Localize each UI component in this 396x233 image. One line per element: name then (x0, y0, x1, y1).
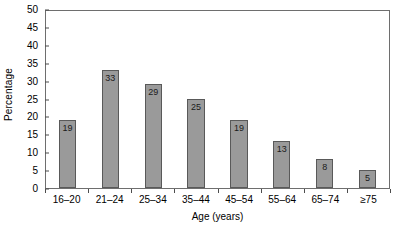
bar-value-label: 33 (105, 74, 115, 187)
x-axis-tick-mark (218, 189, 219, 193)
bar-cell: 19 (46, 11, 89, 188)
x-axis-tick-mark (88, 189, 89, 193)
x-axis-tick-mark (390, 189, 391, 193)
x-axis-tick-mark (347, 189, 348, 193)
x-axis-tick-label: 21–24 (88, 194, 131, 205)
y-axis-tick-label: 50 (27, 5, 38, 15)
y-axis-tick-label: 5 (32, 166, 38, 176)
bar: 5 (359, 170, 376, 188)
bar-value-label: 19 (62, 124, 72, 187)
bar: 19 (59, 120, 76, 188)
y-axis-tick-label: 20 (27, 112, 38, 122)
x-axis-tick-label: ≥75 (347, 194, 390, 205)
x-axis-tick-mark (131, 189, 132, 193)
y-axis-tick-mark (45, 117, 49, 118)
y-axis-tick-mark (45, 45, 49, 46)
bar-value-label: 25 (191, 103, 201, 188)
y-axis-tick-mark (45, 135, 49, 136)
bar-cell: 8 (303, 11, 346, 188)
x-axis-tick-label: 16–20 (45, 194, 88, 205)
bar: 8 (316, 159, 333, 188)
y-axis-tick-mark (45, 63, 49, 64)
y-axis-tick-label: 40 (27, 41, 38, 51)
y-axis-tick-mark (45, 81, 49, 82)
bar-series: 19332925191385 (46, 11, 389, 188)
bar-value-label: 13 (277, 145, 287, 187)
bar-cell: 25 (175, 11, 218, 188)
bar: 13 (273, 141, 290, 188)
bar: 33 (102, 70, 119, 188)
x-axis-tick-label: 35–44 (174, 194, 217, 205)
y-axis-tick-label: 25 (27, 95, 38, 105)
bar-value-label: 8 (322, 163, 327, 187)
x-axis-title: Age (years) (45, 211, 390, 222)
y-axis-tick-mark (45, 171, 49, 172)
x-axis-tick-label: 45–54 (218, 194, 261, 205)
x-axis-tick-mark (45, 189, 46, 193)
bar-cell: 33 (89, 11, 132, 188)
y-axis-tick-label: 30 (27, 77, 38, 87)
x-axis-tick-mark (261, 189, 262, 193)
bar: 19 (230, 120, 247, 188)
x-axis-tick-mark (304, 189, 305, 193)
bar: 25 (187, 99, 204, 189)
y-axis-tick-mark (45, 27, 49, 28)
bar: 29 (145, 84, 162, 188)
y-axis-tick-mark (45, 153, 49, 154)
bar-cell: 29 (132, 11, 175, 188)
y-axis-tick-label: 45 (27, 23, 38, 33)
y-axis-tick-labels: 05101520253035404550 (16, 10, 38, 189)
x-axis-tick-label: 55–64 (261, 194, 304, 205)
y-axis-tick-mark (45, 10, 49, 11)
bar-value-label: 19 (234, 124, 244, 187)
plot-area: 19332925191385 (45, 10, 390, 189)
bar-cell: 5 (346, 11, 389, 188)
bar-value-label: 29 (148, 88, 158, 187)
x-axis-tick-label: 25–34 (131, 194, 174, 205)
bar-value-label: 5 (365, 174, 370, 187)
x-axis-tick-mark (174, 189, 175, 193)
y-axis-tick-label: 15 (27, 130, 38, 140)
bar-cell: 13 (260, 11, 303, 188)
y-axis-tick-label: 10 (27, 148, 38, 158)
y-axis-tick-label: 0 (32, 184, 38, 194)
y-axis-tick-label: 35 (27, 59, 38, 69)
y-axis-title-text: Percentage (4, 68, 15, 121)
y-axis-tick-mark (45, 99, 49, 100)
bar-chart-figure: Percentage 05101520253035404550 19332925… (0, 0, 396, 233)
x-axis-tick-label: 65–74 (304, 194, 347, 205)
x-axis-tick-labels: 16–2021–2425–3435–4445–5455–6465–74≥75 (45, 194, 390, 205)
bar-cell: 19 (218, 11, 261, 188)
